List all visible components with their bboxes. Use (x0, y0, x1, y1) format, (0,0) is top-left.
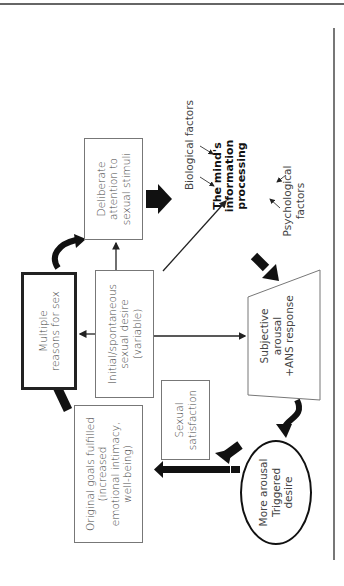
mind-processing-label: The mind's information processing (212, 126, 248, 226)
initial-desire-line1: Initial/spontaneous (106, 284, 119, 384)
deliberate-line2: attention to (107, 153, 120, 226)
more-arousal-line1: More arousal (257, 459, 270, 527)
multiple-reasons-line2: reasons for sex (49, 291, 62, 371)
subjective-arousal-label: Subjective arousal +ANS response (258, 281, 296, 391)
diagram-canvas: Multiple reasons for sex Initial/spontan… (0, 0, 344, 586)
goals-line3: emotional intimacy, (109, 417, 122, 531)
more-arousal-line2: Triggered (270, 459, 283, 527)
deliberate-line3: sexual stimuli (120, 153, 133, 226)
biological-factors-label: Biological factors (183, 90, 196, 200)
original-goals-box: Original goals fulfilled (increased emot… (74, 405, 143, 543)
psychological-factors-label: Psychological factors (281, 156, 306, 246)
subjective-line3: +ANS response (283, 281, 296, 391)
thick-arrow-body (146, 190, 158, 208)
goals-line2: (increased (96, 417, 109, 531)
more-arousal-ellipse: More arousal Triggered desire (240, 440, 312, 545)
deliberate-line1: Deliberate (95, 153, 108, 226)
deliberate-attention-box: Deliberate attention to sexual stimuli (84, 138, 143, 240)
multiple-reasons-box: Multiple reasons for sex (21, 272, 77, 390)
satisfaction-line2: satisfaction (186, 390, 199, 450)
more-arousal-line3: desire (282, 459, 295, 527)
psych-line2: factors (294, 156, 307, 246)
initial-desire-line2: sexual desire (118, 284, 131, 384)
mind-line3: processing (236, 126, 248, 226)
multiple-reasons-line1: Multiple (37, 291, 50, 371)
goals-line4: well-being) (121, 417, 134, 531)
subjective-line2: arousal (271, 281, 284, 391)
initial-desire-line3: (variable) (131, 284, 144, 384)
sexual-satisfaction-box: Sexual satisfaction (161, 380, 210, 460)
goals-line1: Original goals fulfilled (84, 417, 97, 531)
subjective-line1: Subjective (258, 281, 271, 391)
initial-desire-box: Initial/spontaneous sexual desire (varia… (95, 270, 154, 398)
psych-line1: Psychological (281, 156, 294, 246)
satisfaction-line1: Sexual (173, 390, 186, 450)
